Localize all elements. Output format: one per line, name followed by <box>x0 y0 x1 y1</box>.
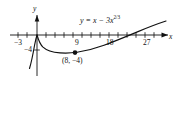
y-tick-label-minus4: −4 <box>24 46 32 54</box>
equation-base: y = x − 3x <box>80 16 113 25</box>
minimum-point-label: (8, −4) <box>62 57 82 65</box>
x-tick-label-27: 27 <box>143 39 151 47</box>
minimum-point-marker <box>73 50 78 55</box>
x-axis-arrowhead <box>162 33 169 38</box>
equation-label: y = x − 3x2/3 <box>80 15 120 25</box>
y-axis-label: y <box>33 5 36 13</box>
graph-figure: y x y = x − 3x2/3 −3 9 18 27 −4 (8, −4) <box>0 0 177 132</box>
x-axis-label: x <box>169 33 172 41</box>
y-axis-arrowhead <box>35 15 40 22</box>
x-tick-label-9: 9 <box>75 39 79 47</box>
x-tick-label-18: 18 <box>106 39 114 47</box>
x-tick-label-minus3: −3 <box>14 39 22 47</box>
equation-exponent: 2/3 <box>113 14 120 20</box>
